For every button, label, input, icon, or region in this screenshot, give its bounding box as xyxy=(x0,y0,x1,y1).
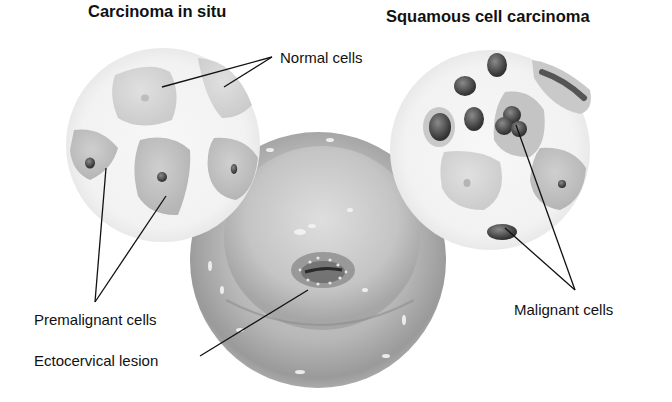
title-carcinoma-in-situ: Carcinoma in situ xyxy=(88,2,226,21)
lesion-area xyxy=(291,252,355,288)
label-malignant-cells: Malignant cells xyxy=(514,301,613,318)
label-premalignant-cells: Premalignant cells xyxy=(34,311,157,328)
title-squamous-cell-carcinoma: Squamous cell carcinoma xyxy=(386,7,590,26)
squamous-cell-carcinoma-magnification xyxy=(390,50,591,250)
carcinoma-in-situ-magnification xyxy=(66,48,260,242)
label-normal-cells: Normal cells xyxy=(280,49,363,66)
label-ectocervical-lesion: Ectocervical lesion xyxy=(34,352,158,369)
